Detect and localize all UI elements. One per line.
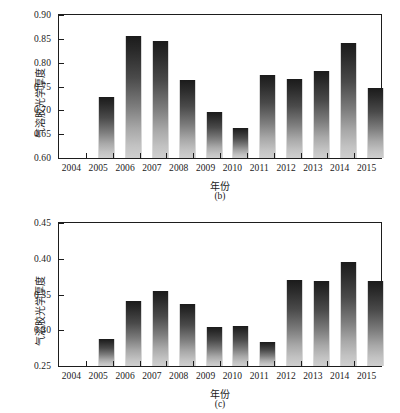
bar bbox=[367, 88, 384, 158]
bar bbox=[179, 80, 196, 158]
y-axis-tick-label: 0.40 bbox=[34, 254, 51, 264]
x-axis-tick bbox=[274, 361, 275, 366]
x-axis-tick-label: 2015 bbox=[357, 163, 376, 173]
bar bbox=[340, 43, 357, 158]
bar-series-b bbox=[59, 15, 381, 158]
x-axis-tick bbox=[86, 361, 87, 366]
x-axis-tick bbox=[274, 153, 275, 158]
x-axis-tick-label: 2012 bbox=[276, 371, 295, 381]
chart-panel-c: 气溶胶光学厚度 0.250.300.350.400.45 年份 (c) 2004… bbox=[0, 208, 400, 413]
x-axis-tick bbox=[327, 153, 328, 158]
y-axis-tick bbox=[59, 134, 64, 135]
x-axis-tick-label: 2013 bbox=[303, 163, 322, 173]
bar bbox=[152, 291, 169, 366]
bar bbox=[152, 41, 169, 158]
x-axis-tick-label: 2009 bbox=[196, 163, 215, 173]
panel-caption-c: (c) bbox=[58, 399, 382, 409]
x-axis-tick-label: 2004 bbox=[62, 163, 81, 173]
bar bbox=[125, 301, 142, 366]
x-axis-tick bbox=[247, 153, 248, 158]
x-axis-tick bbox=[193, 153, 194, 158]
y-axis-tick bbox=[59, 63, 64, 64]
x-axis-tick-label: 2015 bbox=[357, 371, 376, 381]
x-axis-tick-label: 2006 bbox=[115, 371, 134, 381]
y-axis-title-b: 气溶胶光学厚度 bbox=[32, 68, 47, 138]
y-axis-tick-label: 0.80 bbox=[34, 58, 51, 68]
x-axis-tick bbox=[113, 361, 114, 366]
x-axis-tick bbox=[193, 361, 194, 366]
y-axis-tick bbox=[59, 110, 64, 111]
y-axis-tick bbox=[59, 330, 64, 331]
y-axis-tick bbox=[59, 295, 64, 296]
x-axis-tick-label: 2010 bbox=[223, 163, 242, 173]
x-axis-tick bbox=[354, 361, 355, 366]
x-axis-tick-label: 2009 bbox=[196, 371, 215, 381]
y-axis-tick-label: 0.75 bbox=[34, 82, 51, 92]
x-axis-tick-label: 2005 bbox=[89, 371, 108, 381]
x-axis-tick bbox=[301, 153, 302, 158]
y-axis-tick-label: 0.30 bbox=[34, 325, 51, 335]
plot-area-c: 0.250.300.350.400.45 bbox=[58, 222, 382, 367]
x-axis-tick-label: 2012 bbox=[276, 163, 295, 173]
bar bbox=[259, 75, 276, 158]
y-axis-tick bbox=[59, 39, 64, 40]
x-axis-tick-label: 2004 bbox=[62, 371, 81, 381]
bar bbox=[232, 326, 249, 366]
x-axis-tick-label: 2006 bbox=[115, 163, 134, 173]
y-axis-tick-label: 0.90 bbox=[34, 10, 51, 20]
x-axis-tick bbox=[166, 361, 167, 366]
y-axis-tick bbox=[59, 158, 64, 159]
x-axis-tick bbox=[140, 361, 141, 366]
x-axis-tick-label: 2014 bbox=[330, 163, 349, 173]
bar bbox=[286, 280, 303, 367]
y-axis-tick-label: 0.85 bbox=[34, 34, 51, 44]
figure-aerosol-optical-depth: 气溶胶光学厚度 0.600.650.700.750.800.850.90 年份 … bbox=[0, 0, 400, 413]
y-axis-tick-label: 0.65 bbox=[34, 129, 51, 139]
x-axis-tick-label: 2008 bbox=[169, 371, 188, 381]
y-axis-tick bbox=[59, 259, 64, 260]
bar bbox=[340, 262, 357, 366]
y-axis-tick-label: 0.70 bbox=[34, 105, 51, 115]
x-axis-tick bbox=[220, 153, 221, 158]
plot-area-b: 0.600.650.700.750.800.850.90 bbox=[58, 14, 382, 159]
y-axis-tick bbox=[59, 87, 64, 88]
y-axis-tick-label: 0.25 bbox=[34, 361, 51, 371]
x-axis-tick bbox=[113, 153, 114, 158]
y-axis-tick-label: 0.35 bbox=[34, 290, 51, 300]
x-axis-tick-label: 2011 bbox=[250, 371, 269, 381]
x-axis-tick bbox=[301, 361, 302, 366]
x-axis-tick-label: 2007 bbox=[142, 371, 161, 381]
y-axis-tick-label: 0.60 bbox=[34, 153, 51, 163]
x-axis-tick bbox=[354, 153, 355, 158]
y-axis-tick-label: 0.45 bbox=[34, 218, 51, 228]
bar bbox=[367, 281, 384, 366]
chart-panel-b: 气溶胶光学厚度 0.600.650.700.750.800.850.90 年份 … bbox=[0, 0, 400, 205]
bar bbox=[206, 112, 223, 158]
y-axis-tick bbox=[59, 366, 64, 367]
bar bbox=[125, 36, 142, 158]
bar bbox=[313, 71, 330, 158]
x-axis-tick bbox=[166, 153, 167, 158]
bar bbox=[179, 304, 196, 366]
x-axis-tick-label: 2005 bbox=[89, 163, 108, 173]
bar bbox=[313, 281, 330, 366]
panel-caption-b: (b) bbox=[58, 191, 382, 201]
x-axis-tick bbox=[140, 153, 141, 158]
bar bbox=[98, 97, 115, 158]
x-axis-tick bbox=[220, 361, 221, 366]
y-axis-tick bbox=[59, 223, 64, 224]
x-axis-tick bbox=[247, 361, 248, 366]
x-axis-tick-label: 2007 bbox=[142, 163, 161, 173]
y-axis-tick bbox=[59, 15, 64, 16]
bar bbox=[286, 79, 303, 158]
x-axis-tick-label: 2014 bbox=[330, 371, 349, 381]
x-axis-tick-label: 2011 bbox=[250, 163, 269, 173]
bar-series-c bbox=[59, 223, 381, 366]
x-axis-tick-label: 2010 bbox=[223, 371, 242, 381]
x-axis-tick-label: 2008 bbox=[169, 163, 188, 173]
x-axis-tick bbox=[327, 361, 328, 366]
x-axis-tick-label: 2013 bbox=[303, 371, 322, 381]
x-axis-tick bbox=[86, 153, 87, 158]
